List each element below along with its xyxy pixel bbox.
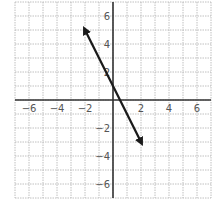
y-tick-label: 4 [104,39,110,50]
x-tick-label: 2 [138,103,144,114]
x-tick-label: −2 [78,103,93,114]
y-tick-label: 6 [104,11,110,22]
x-tick-label: −6 [22,103,37,114]
x-tick-label: 4 [166,103,172,114]
y-tick-label: −2 [95,123,110,134]
axes [15,2,211,198]
y-tick-label: −4 [95,151,110,162]
y-tick-label: −6 [95,179,110,190]
x-tick-label: −4 [50,103,65,114]
coordinate-plane: −6−4−2246642−2−4−6 [0,0,224,205]
x-tick-label: 6 [194,103,200,114]
